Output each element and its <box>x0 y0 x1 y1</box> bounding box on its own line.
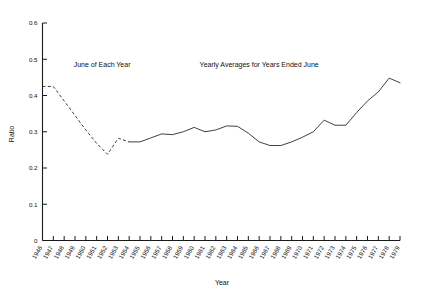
line-chart: 00.10.20.30.40.50.6 19461947194819491950… <box>0 0 435 300</box>
y-tick-label: 0.4 <box>29 92 38 99</box>
y-axis-title: Ratio <box>8 126 15 142</box>
series-group <box>43 78 401 154</box>
y-tick-label: 0.1 <box>29 201 38 208</box>
x-tick-labels: 1946194719481949195019511952195319541955… <box>30 244 401 260</box>
series-line-solid <box>129 78 400 145</box>
chart-annotation: Yearly Averages for Years Ended June <box>200 61 319 69</box>
y-tick-label: 0.5 <box>29 56 38 63</box>
y-tick-label: 0.2 <box>29 164 38 171</box>
y-tick-marks <box>43 23 48 241</box>
y-tick-labels: 00.10.20.30.40.50.6 <box>29 19 38 244</box>
x-tick-marks <box>43 236 401 241</box>
y-tick-label: 0.3 <box>29 128 38 135</box>
axes <box>43 23 401 241</box>
annotation-group: June of Each YearYearly Averages for Yea… <box>74 61 319 69</box>
y-tick-label: 0 <box>34 237 38 244</box>
x-axis-title: Year <box>215 279 230 286</box>
x-tick-label: 1979 <box>388 244 401 260</box>
chart-figure: 00.10.20.30.40.50.6 19461947194819491950… <box>0 0 435 300</box>
y-tick-label: 0.6 <box>29 19 38 26</box>
chart-annotation: June of Each Year <box>74 61 131 68</box>
series-line-dashed <box>43 86 130 154</box>
